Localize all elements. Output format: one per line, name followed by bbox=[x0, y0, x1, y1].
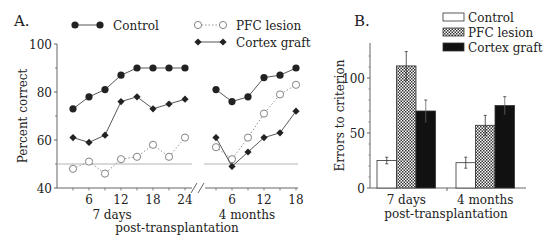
control-marker bbox=[292, 64, 299, 71]
y-tick-label: 100 bbox=[29, 38, 52, 52]
legend-label: Control bbox=[113, 19, 159, 33]
pfc-lesion-marker bbox=[181, 134, 188, 141]
cortex-graft-marker bbox=[85, 139, 92, 146]
legend-item-control: Control bbox=[71, 19, 159, 33]
legend-cortex-graft-marker bbox=[194, 38, 201, 45]
control-marker bbox=[276, 72, 283, 79]
axis-break-mark bbox=[198, 183, 204, 193]
panel-a-line-chart: ControlPFC lesionCortex graft 406080100P… bbox=[16, 19, 311, 236]
pfc-lesion-marker bbox=[117, 156, 124, 163]
y-tick-label: 40 bbox=[37, 182, 52, 196]
cortex-graft-bar bbox=[416, 111, 436, 188]
y-tick-label: 50 bbox=[350, 127, 365, 141]
x-axis-label: post-transplantation bbox=[115, 221, 239, 235]
y-axis-label: Errors to criterion bbox=[333, 59, 347, 171]
legend-pfc-lesion-marker bbox=[219, 21, 226, 28]
legend-item-cortex-graft: Cortex graft bbox=[194, 36, 310, 50]
control-marker bbox=[244, 93, 251, 100]
x-tick-label: 6 bbox=[228, 193, 236, 207]
control-marker bbox=[69, 105, 76, 112]
legend-item-cortex-graft: Cortex graft bbox=[443, 41, 543, 55]
legend-label: Cortex graft bbox=[468, 41, 543, 55]
x-tick-label: 24 bbox=[177, 193, 193, 207]
pfc-lesion-line bbox=[216, 85, 296, 159]
control-marker bbox=[260, 74, 267, 81]
pfc-lesion-marker bbox=[133, 153, 140, 160]
x-axis-label: post-transplantation bbox=[384, 207, 508, 221]
segment-label-7-days: 7 days bbox=[92, 208, 131, 222]
cortex-graft-marker bbox=[212, 134, 219, 141]
control-line bbox=[216, 68, 296, 102]
legend-pfc-lesion-marker bbox=[194, 21, 201, 28]
panel-a-label: A. bbox=[13, 12, 30, 30]
y-tick-label: 80 bbox=[37, 86, 52, 100]
legend-item-control: Control bbox=[443, 11, 514, 25]
cortex-graft-marker bbox=[117, 98, 124, 105]
control-bar bbox=[377, 161, 397, 189]
control-marker bbox=[181, 64, 188, 71]
cortex-graft-bar bbox=[495, 106, 515, 189]
cortex-graft-marker bbox=[276, 129, 283, 136]
cortex-graft-marker bbox=[149, 105, 156, 112]
pfc-lesion-marker bbox=[85, 158, 92, 165]
panel-b-bar-chart: ControlPFC lesionCortex graft 050100Erro… bbox=[333, 11, 543, 222]
legend-label: PFC lesion bbox=[236, 19, 302, 33]
figure-canvas: A. B. ControlPFC lesionCortex graft 4060… bbox=[0, 0, 546, 241]
pfc-lesion-marker bbox=[292, 81, 299, 88]
pfc-lesion-marker bbox=[244, 134, 251, 141]
pfc-lesion-marker bbox=[101, 170, 108, 177]
cortex-graft-marker bbox=[69, 134, 76, 141]
cortex-graft-marker bbox=[133, 93, 140, 100]
legend-item-pfc-lesion: PFC lesion bbox=[443, 26, 534, 40]
legend-label: PFC lesion bbox=[468, 26, 534, 40]
pfc-lesion-marker bbox=[69, 165, 76, 172]
y-tick-label: 60 bbox=[37, 134, 52, 148]
x-tick-label: 18 bbox=[145, 193, 160, 207]
control-marker bbox=[149, 64, 156, 71]
bar-group-7-days bbox=[377, 52, 436, 188]
x-tick-label: 12 bbox=[113, 193, 128, 207]
control-marker bbox=[101, 86, 108, 93]
control-marker bbox=[133, 64, 140, 71]
bar-group-4-months bbox=[456, 97, 515, 188]
legend-label: Control bbox=[468, 11, 514, 25]
cortex-graft-marker bbox=[101, 132, 108, 139]
control-marker bbox=[212, 86, 219, 93]
legend-label: Cortex graft bbox=[236, 36, 311, 50]
category-label: 7 days bbox=[387, 193, 426, 207]
cortex-graft-marker bbox=[165, 100, 172, 107]
legend-cortex-graft-marker bbox=[219, 38, 226, 45]
control-marker bbox=[228, 98, 235, 105]
pfc-lesion-marker bbox=[149, 141, 156, 148]
panel-a-series bbox=[69, 64, 299, 177]
legend-control-marker bbox=[71, 21, 78, 28]
pfc-lesion-marker bbox=[165, 153, 172, 160]
control-marker bbox=[85, 93, 92, 100]
segment-label-4-months: 4 months bbox=[219, 208, 276, 222]
x-tick-label: 12 bbox=[256, 193, 271, 207]
panel-b-label: B. bbox=[354, 12, 370, 30]
pfc-lesion-bar bbox=[397, 66, 417, 188]
control-marker bbox=[165, 64, 172, 71]
pfc-lesion-marker bbox=[276, 91, 283, 98]
panel-a-axes: 406080100Percent correct61218247 days612… bbox=[16, 38, 304, 236]
panel-b-legend: ControlPFC lesionCortex graft bbox=[443, 11, 543, 55]
x-tick-label: 6 bbox=[85, 193, 93, 207]
x-tick-label: 18 bbox=[288, 193, 303, 207]
cortex-graft-marker bbox=[292, 108, 299, 115]
panel-b-bars bbox=[377, 52, 515, 188]
figure: A. B. ControlPFC lesionCortex graft 4060… bbox=[0, 0, 546, 241]
y-tick-label: 0 bbox=[357, 182, 365, 196]
y-axis-label: Percent correct bbox=[16, 69, 30, 164]
panel-a-legend: ControlPFC lesionCortex graft bbox=[71, 19, 310, 50]
category-label: 4 months bbox=[457, 193, 514, 207]
pfc-lesion-marker bbox=[212, 144, 219, 151]
control-marker bbox=[117, 72, 124, 79]
cortex-graft-marker bbox=[181, 96, 188, 103]
pfc-lesion-marker bbox=[260, 110, 267, 117]
cortex-graft-line bbox=[216, 111, 296, 166]
legend-item-pfc-lesion: PFC lesion bbox=[194, 19, 301, 33]
legend-control-marker bbox=[96, 21, 103, 28]
